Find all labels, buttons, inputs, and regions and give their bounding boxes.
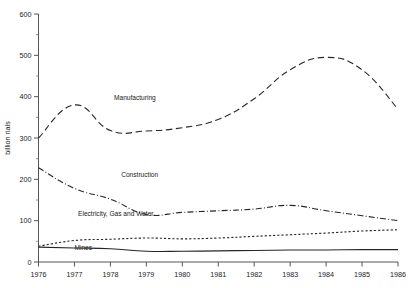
x-tick-label: 1979: [138, 270, 154, 279]
x-tick-label: 1984: [318, 270, 334, 279]
chart-container: 0100200300400500600 19761977197819791980…: [0, 0, 416, 288]
y-tick-label: 300: [20, 134, 32, 143]
series-label: Construction: [121, 171, 158, 178]
x-tick-label: 1986: [390, 270, 406, 279]
x-tick-label: 1977: [66, 270, 82, 279]
y-tick-label: 100: [20, 216, 32, 225]
x-tick-label: 1982: [246, 270, 262, 279]
series-label: Electricity, Gas and Water: [78, 210, 154, 218]
y-tick-label: 500: [20, 51, 32, 60]
y-tick-label: 400: [20, 92, 32, 101]
line-chart: 0100200300400500600 19761977197819791980…: [0, 0, 416, 288]
x-tick-label: 1978: [102, 270, 118, 279]
y-tick-label: 200: [20, 175, 32, 184]
x-tick-label: 1985: [354, 270, 370, 279]
series-label: Manufacturing: [114, 94, 156, 102]
x-tick-label: 1983: [282, 270, 298, 279]
x-tick-label: 1981: [210, 270, 226, 279]
y-tick-label: 600: [20, 10, 32, 19]
axis-titles: billion rials: [3, 121, 12, 155]
x-tick-label: 1976: [31, 270, 47, 279]
series-label: Mines: [74, 244, 92, 251]
chart-background: [0, 0, 416, 288]
x-tick-label: 1980: [174, 270, 190, 279]
y-tick-label: 0: [28, 258, 32, 267]
y-axis-title: billion rials: [3, 121, 12, 155]
